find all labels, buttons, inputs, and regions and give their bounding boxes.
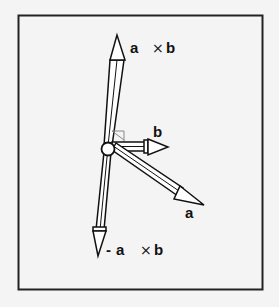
svg-text:×: × (152, 40, 164, 56)
svg-text:-: - (106, 241, 111, 258)
svg-text:×: × (140, 242, 152, 258)
svg-text:a: a (116, 241, 125, 258)
svg-text:b: b (166, 39, 175, 56)
label-a-cross-b: a × b (130, 39, 175, 56)
label-b: b (153, 123, 162, 140)
label-a: a (185, 204, 194, 221)
origin-joint (102, 143, 115, 156)
cross-product-diagram: a × b b a - a × b (0, 0, 279, 307)
svg-text:b: b (154, 241, 163, 258)
svg-text:a: a (130, 39, 139, 56)
